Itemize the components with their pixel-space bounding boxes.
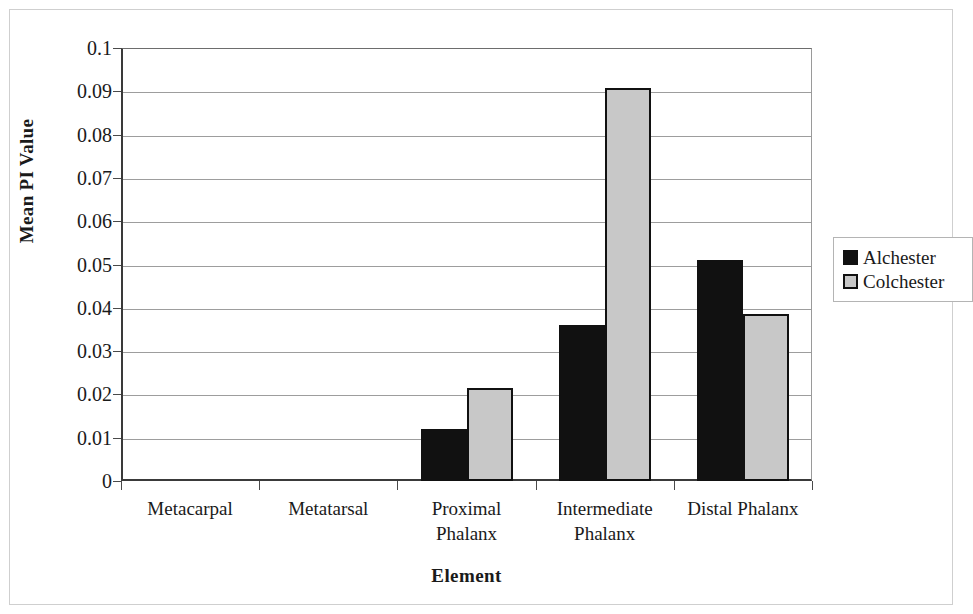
y-axis-tick-label: 0.02 [77,384,112,404]
y-axis-tick-label: 0.05 [77,255,112,275]
x-axis-category-label: Distal Phalanx [668,496,818,521]
chart-legend: AlchesterColchester [833,237,973,302]
x-axis-category-label-line: Metatarsal [253,496,403,521]
y-axis-tick-label: 0.09 [77,81,112,101]
y-axis-title: Mean PI Value [16,81,38,281]
gridline [123,222,811,223]
gridline [123,136,811,137]
x-axis-category-label-line: Distal Phalanx [668,496,818,521]
y-axis-tick-label: 0.03 [77,341,112,361]
gridline [123,92,811,93]
x-axis-tick-mark [674,481,675,490]
x-axis-category-label: IntermediatePhalanx [530,496,680,546]
y-axis-tick-label: 0.07 [77,168,112,188]
y-axis-tick-mark [113,221,121,222]
y-axis-tick-label: 0.1 [87,38,112,58]
y-axis-tick-label: 0.01 [77,428,112,448]
x-axis-tick-mark [397,481,398,490]
y-axis-tick-mark [113,48,121,49]
y-axis-tick-mark [113,135,121,136]
gridline [123,266,811,267]
y-axis-tick-label: 0.04 [77,298,112,318]
y-axis-tick-mark [113,481,121,482]
y-axis-tick-mark [113,265,121,266]
y-axis-tick-labels: 0.10.090.080.070.060.050.040.030.020.010 [50,0,112,614]
x-axis-category-label: ProximalPhalanx [391,496,541,546]
x-axis-tick-mark [121,481,122,490]
y-axis-tick-label: 0.08 [77,125,112,145]
plot-area [121,48,812,481]
x-axis-tick-mark [536,481,537,490]
y-axis-tick-mark [113,351,121,352]
legend-item-alchester: Alchester [843,245,966,269]
y-axis-tick-label: 0 [102,471,112,491]
x-axis-category-label-line: Phalanx [391,521,541,546]
x-axis-category-label-line: Metacarpal [115,496,265,521]
y-axis-tick-mark [113,394,121,395]
gridline [123,309,811,310]
legend-item-label: Colchester [863,272,944,291]
legend-item-colchester: Colchester [843,269,966,293]
x-axis-category-label-line: Proximal [391,496,541,521]
gridline [123,395,811,396]
y-axis-tick-mark [113,438,121,439]
x-axis-category-label-line: Intermediate [530,496,680,521]
y-axis-tick-mark [113,308,121,309]
legend-item-label: Alchester [863,248,936,267]
legend-swatch-icon [843,274,858,289]
x-axis-tick-mark [812,481,813,490]
gridline [123,439,811,440]
x-axis-tick-mark [259,481,260,490]
y-axis-tick-mark [113,178,121,179]
gridline [123,179,811,180]
y-axis-tick-label: 0.06 [77,211,112,231]
x-axis-category-label: Metacarpal [115,496,265,521]
x-axis-category-label-line: Phalanx [530,521,680,546]
x-axis-title: Element [121,565,812,587]
legend-swatch-icon [843,250,858,265]
y-axis-tick-mark [113,91,121,92]
gridline [123,352,811,353]
x-axis-category-label: Metatarsal [253,496,403,521]
